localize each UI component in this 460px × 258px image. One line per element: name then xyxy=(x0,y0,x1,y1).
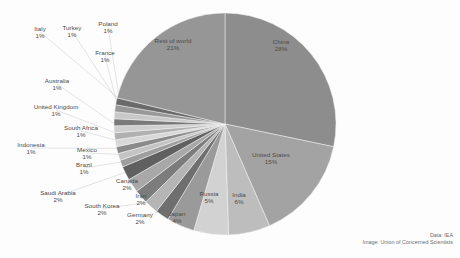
slice-label: United States15% xyxy=(252,151,290,166)
slice-label-name: Japan xyxy=(168,210,185,217)
slice-label-pct: 1% xyxy=(34,32,46,39)
slice-label-name: Australia xyxy=(45,77,70,84)
slice-label-pct: 2% xyxy=(85,209,120,216)
slice-label-pct: 1% xyxy=(95,56,115,63)
slice-label: United Kingdom1% xyxy=(34,103,79,118)
slice-label-pct: 2% xyxy=(127,218,153,225)
slice-label-pct: 2% xyxy=(136,199,147,206)
slice-label: Iran2% xyxy=(136,192,147,207)
slice-label: France1% xyxy=(95,49,115,64)
leader-line xyxy=(72,31,123,109)
slice-label: Saudi Arabia2% xyxy=(40,189,76,204)
slice-label-name: Brazil xyxy=(76,161,92,168)
slice-label: Mexico1% xyxy=(77,146,97,161)
slice-label: South Korea2% xyxy=(85,202,120,217)
slice-label-name: India xyxy=(232,191,246,198)
slice-label-pct: 1% xyxy=(45,84,70,91)
credit-image: Image: Union of Concerned Scientists xyxy=(363,239,454,247)
slice-label: Rest of world21% xyxy=(155,37,192,52)
slice-label-pct: 1% xyxy=(17,148,44,155)
slice-label-name: Poland xyxy=(98,20,118,27)
slice-label-pct: 1% xyxy=(76,168,92,175)
slice-label-name: China xyxy=(273,38,289,45)
slice-label-pct: 1% xyxy=(34,110,79,117)
slice-label-name: South Africa xyxy=(64,124,98,131)
pie-slices xyxy=(114,13,336,235)
slice-label-name: Russia xyxy=(199,190,218,197)
slice-label-name: Saudi Arabia xyxy=(40,189,76,196)
slice-label: South Africa1% xyxy=(64,124,98,139)
slice-label: Japan4% xyxy=(168,210,185,225)
pie-slice xyxy=(225,13,336,147)
slice-label: India6% xyxy=(232,191,246,206)
slice-label-name: France xyxy=(95,49,115,56)
slice-label-name: United Kingdom xyxy=(34,103,79,110)
slice-label-pct: 15% xyxy=(252,158,290,165)
slice-label-pct: 1% xyxy=(64,131,98,138)
slice-label-pct: 1% xyxy=(77,153,97,160)
slice-label-pct: 1% xyxy=(63,31,82,38)
slice-label: Poland1% xyxy=(98,20,118,35)
slice-label-name: Indonesia xyxy=(17,141,44,148)
pie-chart: China28%United States15%India6%Russia5%J… xyxy=(0,0,460,258)
leader-line xyxy=(40,32,124,103)
slice-label: Italy1% xyxy=(34,25,46,40)
slice-label-name: Iran xyxy=(136,192,147,199)
slice-label: Turkey1% xyxy=(63,24,82,39)
slice-label-pct: 21% xyxy=(155,44,192,51)
slice-label: Indonesia1% xyxy=(17,141,44,156)
slice-label-pct: 6% xyxy=(232,198,246,205)
slice-label-pct: 4% xyxy=(168,217,185,224)
slice-label-pct: 5% xyxy=(199,197,218,204)
slice-label: Canada2% xyxy=(116,177,138,192)
slice-label-name: Germany xyxy=(127,211,153,218)
slice-label-pct: 28% xyxy=(273,45,289,52)
slice-label: Germany2% xyxy=(127,211,153,226)
slice-label-name: South Korea xyxy=(85,202,120,209)
slice-label: Brazil1% xyxy=(76,161,92,176)
slice-label-name: Mexico xyxy=(77,146,97,153)
slice-label-name: Italy xyxy=(34,25,46,32)
slice-label-name: United States xyxy=(252,151,290,158)
slice-label: China28% xyxy=(273,38,289,53)
slice-label-pct: 1% xyxy=(98,27,118,34)
slice-label: Russia5% xyxy=(199,190,218,205)
slice-label-pct: 2% xyxy=(116,184,138,191)
credits: Data: IEA Image: Union of Concerned Scie… xyxy=(363,232,454,247)
slice-label-name: Turkey xyxy=(63,24,82,31)
slice-label-name: Canada xyxy=(116,177,138,184)
slice-label-name: Rest of world xyxy=(155,37,192,44)
slice-label-pct: 2% xyxy=(40,196,76,203)
slice-label: Australia1% xyxy=(45,77,70,92)
credit-data: Data: IEA xyxy=(363,232,454,240)
